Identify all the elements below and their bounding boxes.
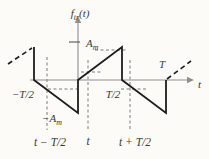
- sample-label-left: t − T/2: [34, 136, 66, 148]
- amplitude-neg-label-text-run: m: [56, 118, 62, 127]
- amplitude-neg-label-text-run: −A: [42, 112, 56, 124]
- y-axis-title-text-run: (t): [79, 7, 90, 20]
- sample-label-right: t + T/2: [119, 136, 151, 148]
- tick-label-pos-half-period: T/2: [106, 88, 121, 100]
- sample-label-right-text-run: t + T/2: [119, 136, 151, 148]
- tick-label-neg-half-period-text-run: −T/2: [12, 88, 35, 100]
- figure-canvas: ftr(t)Am−Am−T/2T/2Ttt − T/2tt + T/2: [0, 0, 209, 159]
- waveform-figure: ftr(t)Am−Am−T/2T/2Ttt − T/2tt + T/2: [0, 0, 209, 159]
- sample-label-left-text-run: t − T/2: [34, 136, 66, 148]
- tick-label-period-text-run: T: [159, 58, 166, 70]
- amplitude-pos-label-text-run: m: [93, 43, 99, 52]
- tick-label-neg-half-period: −T/2: [12, 88, 35, 100]
- tick-label-period: T: [159, 58, 166, 70]
- tick-label-pos-half-period-text-run: T/2: [106, 88, 121, 100]
